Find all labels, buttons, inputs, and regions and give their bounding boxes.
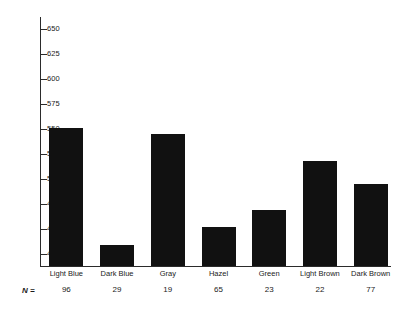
n-value: 22 <box>291 286 349 295</box>
n-value: 65 <box>190 286 248 295</box>
n-value: 29 <box>88 286 146 295</box>
bar <box>100 245 134 267</box>
plot-area <box>41 17 396 267</box>
x-axis-label: Dark Brown <box>342 270 400 278</box>
x-axis-label: Gray <box>139 270 197 278</box>
x-axis-label: Green <box>240 270 298 278</box>
n-row-label: N = <box>22 286 35 295</box>
n-value: 23 <box>240 286 298 295</box>
x-axis-label: Light Brown <box>291 270 349 278</box>
bar <box>354 184 388 267</box>
x-axis-label: Hazel <box>190 270 248 278</box>
n-value: 77 <box>342 286 400 295</box>
n-value: 96 <box>37 286 95 295</box>
bar <box>303 161 337 267</box>
bar <box>252 210 286 267</box>
x-axis-label: Dark Blue <box>88 270 146 278</box>
n-values-row: 96291965232277 <box>41 286 396 300</box>
bar <box>202 227 236 267</box>
x-axis-line <box>41 266 391 267</box>
bar <box>151 134 185 267</box>
bar <box>49 128 83 267</box>
x-axis-labels: Light BlueDark BlueGrayHazelGreenLight B… <box>41 270 396 284</box>
x-axis-label: Light Blue <box>37 270 95 278</box>
n-value: 19 <box>139 286 197 295</box>
bar-chart: 425450475500525550575600625650 Light Blu… <box>0 0 411 324</box>
